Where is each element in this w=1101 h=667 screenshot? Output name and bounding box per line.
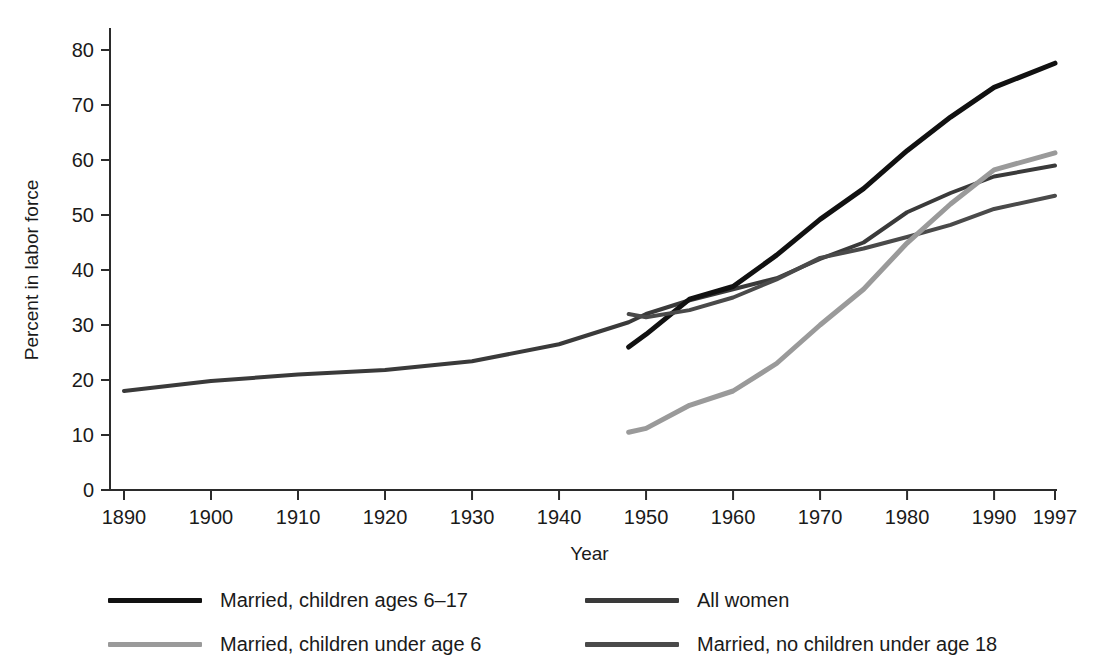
y-tick-label: 20 [72,369,94,391]
line-chart-svg: 01020304050607080 1890190019101920193019… [0,0,1101,575]
y-axis-group: 01020304050607080 [72,28,110,501]
x-axis-ticks: 1890190019101920193019401950196019701980… [102,490,1078,528]
series-lines-group [124,63,1055,432]
y-tick-label: 70 [72,94,94,116]
y-tick-label: 80 [72,39,94,61]
legend-swatch [108,598,202,603]
x-tick-label: 1950 [624,506,669,528]
legend-item: Married, no children under age 18 [585,622,1085,666]
y-axis-title: Percent in labor force [21,180,42,361]
x-axis-title: Year [570,543,609,564]
legend-column-left: Married, children ages 6–17Married, chil… [108,578,578,666]
x-tick-label: 1997 [1033,506,1078,528]
x-tick-label: 1940 [537,506,582,528]
x-tick-label: 1900 [189,506,234,528]
y-axis-ticks: 01020304050607080 [72,39,110,501]
series-line [629,153,1055,432]
x-tick-label: 1910 [276,506,321,528]
x-tick-label: 1930 [450,506,495,528]
y-tick-label: 30 [72,314,94,336]
x-tick-label: 1980 [885,506,930,528]
y-tick-label: 0 [83,479,94,501]
x-tick-label: 1990 [972,506,1017,528]
y-tick-label: 10 [72,424,94,446]
x-tick-label: 1960 [711,506,756,528]
x-tick-label: 1970 [798,506,843,528]
x-tick-label: 1890 [102,506,147,528]
figure-container: 01020304050607080 1890190019101920193019… [0,0,1101,667]
chart-area: 01020304050607080 1890190019101920193019… [0,0,1101,575]
x-axis-group: 1890190019101920193019401950196019701980… [102,490,1078,528]
legend-label: All women [697,590,789,610]
y-tick-label: 50 [72,204,94,226]
y-tick-label: 40 [72,259,94,281]
legend-swatch [108,642,202,647]
legend-item: Married, children ages 6–17 [108,578,578,622]
legend-swatch [585,598,679,603]
chart-legend: Married, children ages 6–17Married, chil… [0,578,1101,667]
legend-item: Married, children under age 6 [108,622,578,666]
series-line [124,166,1055,392]
legend-item: All women [585,578,1085,622]
legend-label: Married, no children under age 18 [697,634,997,654]
y-tick-label: 60 [72,149,94,171]
legend-label: Married, children under age 6 [220,634,481,654]
legend-swatch [585,642,679,647]
legend-label: Married, children ages 6–17 [220,590,468,610]
x-tick-label: 1920 [363,506,408,528]
legend-column-right: All womenMarried, no children under age … [585,578,1085,666]
